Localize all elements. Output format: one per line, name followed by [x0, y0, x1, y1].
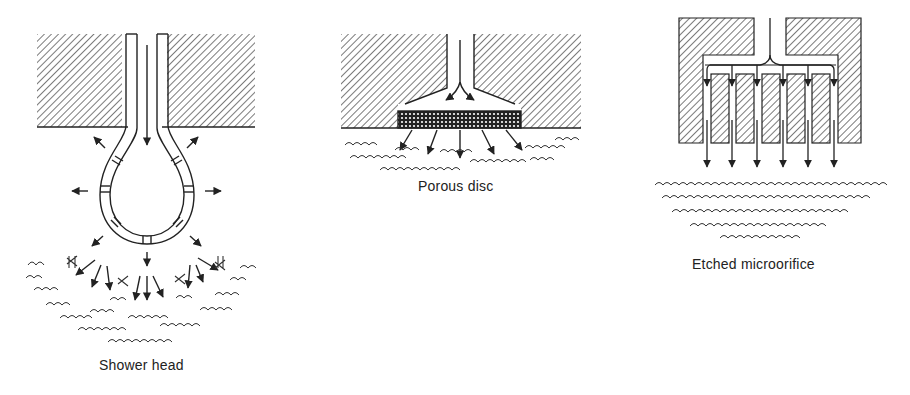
porous-disc [398, 111, 521, 128]
caption-porous-disc: Porous disc [418, 178, 493, 194]
plasma-cloud [26, 256, 256, 342]
porous-disc-panel [341, 34, 581, 170]
caption-etched-microorifice: Etched microorifice [692, 256, 815, 272]
shower-head-panel [26, 34, 256, 342]
gas-distribution-diagram [0, 0, 910, 395]
etched-microorifice-panel [655, 18, 887, 238]
plasma-cloud [345, 138, 579, 171]
caption-shower-head: Shower head [99, 357, 184, 373]
electrode-block [37, 34, 255, 127]
plasma-cloud [655, 183, 887, 239]
